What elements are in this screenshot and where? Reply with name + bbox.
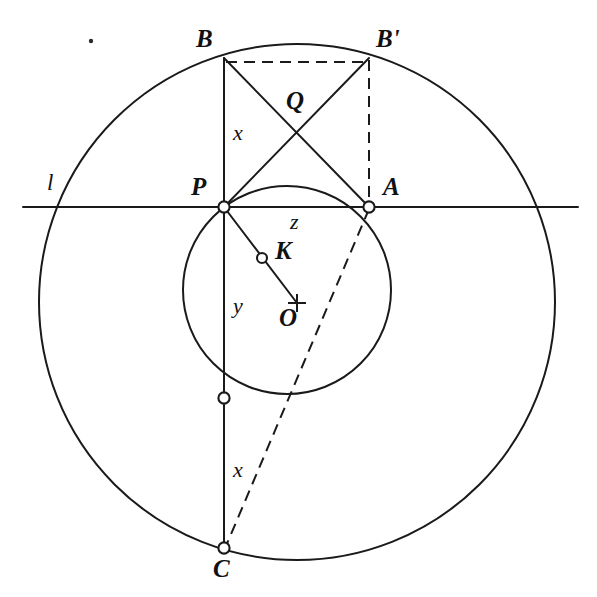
line-label-l: l (47, 171, 53, 194)
point-label-B: B (196, 26, 213, 51)
point-marker-A (363, 201, 374, 212)
segment-label-x-lower: x (233, 459, 243, 481)
point-label-K: K (275, 238, 292, 263)
segment-label-y: y (233, 295, 243, 317)
point-marker-P (218, 201, 229, 212)
geometry-figure: B B' Q P A K O C x x y z l (0, 0, 597, 597)
point-marker-K (257, 253, 267, 263)
point-label-C: C (213, 556, 230, 581)
point-label-A: A (383, 174, 400, 199)
point-marker-D (218, 392, 229, 403)
ink-speck (89, 39, 93, 43)
segment-A-C (226, 209, 369, 546)
segment-label-x-upper: x (233, 122, 243, 144)
point-label-P: P (191, 174, 206, 199)
point-label-O: O (279, 305, 297, 330)
point-label-B-prime: B' (376, 26, 400, 51)
point-label-Q: Q (286, 88, 304, 113)
point-marker-C (218, 542, 229, 553)
segment-label-z: z (290, 211, 299, 233)
